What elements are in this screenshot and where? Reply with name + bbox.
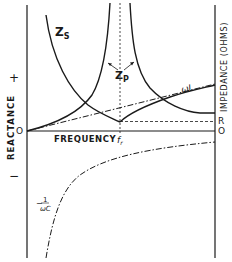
series-impedance-curve-right [120,85,215,122]
svg-text:ωC: ωC [40,205,51,213]
parallel-impedance-label: ZP [115,69,129,84]
positive-reactance-label: + [9,71,19,85]
capacitive-reactance-curve [46,142,215,258]
capacitive-label: − 1 ωC [36,196,51,213]
negative-reactance-label: − [9,169,19,183]
resonance-frequency-label: fr [117,135,123,146]
inductive-label: ωL [180,82,195,95]
frequency-axis-label: FREQUENCY [54,134,116,144]
left-zero-label: O [16,126,23,136]
resistance-label: R [218,116,224,126]
impedance-diagram: ZS ZP ωL − 1 ωC FREQUENCY fr O O R + − R… [0,0,232,262]
reactance-axis-label: REACTANCE [6,95,16,160]
impedance-axis-label: IMPEDANCE (OHMS) [220,22,229,112]
right-zero-label: O [218,126,225,136]
series-impedance-label: ZS [55,25,70,41]
